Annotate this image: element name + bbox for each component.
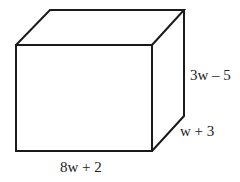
front-face <box>16 45 152 151</box>
top-face <box>16 10 184 45</box>
depth-label: w + 3 <box>180 123 214 139</box>
length-label: 8w + 2 <box>60 159 102 175</box>
rectangular-prism-diagram: 3w – 5 w + 3 8w + 2 <box>0 0 240 182</box>
height-label: 3w – 5 <box>190 67 231 83</box>
